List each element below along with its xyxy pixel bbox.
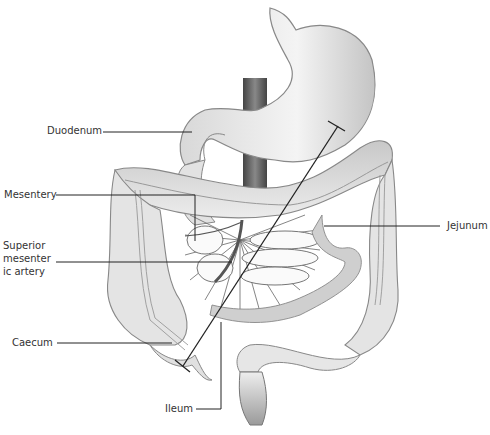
label-mesentery: Mesentery xyxy=(4,188,57,201)
rectum xyxy=(239,372,266,425)
anatomy-diagram: Duodenum Mesentery Superior mesenter ic … xyxy=(0,0,490,435)
stomach xyxy=(180,8,375,165)
label-ileum: Ileum xyxy=(165,402,193,415)
label-jejunum: Jejunum xyxy=(447,219,488,232)
label-duodenum: Duodenum xyxy=(47,124,102,137)
label-caecum: Caecum xyxy=(12,336,53,349)
caecum xyxy=(150,345,212,380)
sigmoid-colon xyxy=(237,344,360,372)
intestine-illustration xyxy=(0,0,490,435)
label-superior-mesenteric-artery: Superior mesenter ic artery xyxy=(3,239,51,278)
